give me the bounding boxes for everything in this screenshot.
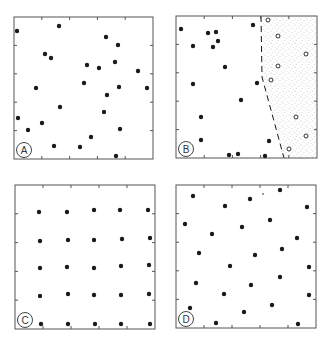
filled-point xyxy=(183,222,187,226)
panel-label: A xyxy=(21,145,28,156)
filled-point xyxy=(199,115,203,119)
panel-a: A xyxy=(14,17,153,159)
filled-point xyxy=(249,283,253,287)
panel-label: B xyxy=(183,144,190,155)
filled-point xyxy=(97,66,101,70)
filled-point xyxy=(191,82,195,86)
filled-point xyxy=(78,145,82,149)
filled-point xyxy=(253,253,257,257)
filled-point xyxy=(118,127,122,131)
filled-point xyxy=(191,194,195,198)
filled-point xyxy=(118,208,122,212)
filled-point xyxy=(117,85,121,89)
filled-point xyxy=(194,281,198,285)
filled-point xyxy=(255,81,259,85)
filled-point xyxy=(120,237,124,241)
panel-frame xyxy=(176,185,316,328)
filled-point xyxy=(251,23,255,27)
filled-point xyxy=(278,188,282,192)
filled-point xyxy=(267,139,271,143)
filled-point xyxy=(199,138,203,142)
panel-frame xyxy=(15,185,155,329)
filled-point xyxy=(38,239,42,243)
filled-point xyxy=(65,265,69,269)
filled-point xyxy=(136,69,140,73)
open-point xyxy=(269,78,273,82)
filled-point xyxy=(145,86,149,90)
filled-point xyxy=(93,322,97,326)
filled-point xyxy=(104,35,108,39)
filled-point xyxy=(105,93,109,97)
filled-point xyxy=(242,310,246,314)
filled-point xyxy=(65,210,69,214)
filled-point xyxy=(179,27,183,31)
filled-point xyxy=(57,24,61,28)
filled-point xyxy=(263,154,267,158)
filled-point xyxy=(278,275,282,279)
filled-point xyxy=(206,31,210,35)
filled-point xyxy=(119,264,123,268)
open-point xyxy=(276,64,280,68)
filled-point xyxy=(268,218,272,222)
filled-point xyxy=(214,321,218,325)
filled-point xyxy=(307,293,311,297)
speck xyxy=(262,193,264,195)
filled-point xyxy=(307,265,311,269)
filled-point xyxy=(296,322,300,326)
filled-point xyxy=(92,238,96,242)
filled-point xyxy=(89,135,93,139)
filled-point xyxy=(216,39,220,43)
filled-point xyxy=(16,116,20,120)
panel-label: D xyxy=(182,314,189,325)
filled-point xyxy=(49,56,53,60)
filled-point xyxy=(280,247,284,251)
filled-point xyxy=(146,208,150,212)
open-point xyxy=(304,134,308,138)
filled-point xyxy=(66,238,70,242)
filled-point xyxy=(223,204,227,208)
filled-point xyxy=(37,210,41,214)
filled-point xyxy=(222,292,226,296)
filled-point xyxy=(66,322,70,326)
filled-point xyxy=(58,105,62,109)
filled-point xyxy=(26,128,30,132)
filled-point xyxy=(114,154,118,158)
filled-point xyxy=(15,29,19,33)
filled-point xyxy=(82,81,86,85)
filled-point xyxy=(39,322,43,326)
panel-label: C xyxy=(21,315,28,326)
filled-point xyxy=(211,45,215,49)
open-point xyxy=(276,34,280,38)
filled-point xyxy=(248,197,252,201)
filled-point xyxy=(240,225,244,229)
filled-point xyxy=(66,292,70,296)
filled-point xyxy=(270,303,274,307)
shaded-region xyxy=(261,16,317,158)
filled-point xyxy=(188,306,192,310)
filled-point xyxy=(295,236,299,240)
open-point xyxy=(266,18,270,22)
open-point xyxy=(304,52,308,56)
panel-d: D xyxy=(176,185,316,328)
point-pattern-figure: A B C D xyxy=(0,0,330,339)
filled-point xyxy=(214,30,218,34)
filled-point xyxy=(227,153,231,157)
filled-point xyxy=(34,86,38,90)
filled-point xyxy=(102,110,106,114)
filled-point xyxy=(119,293,123,297)
panel-c: C xyxy=(15,185,155,329)
filled-point xyxy=(38,294,42,298)
filled-point xyxy=(119,322,123,326)
filled-point xyxy=(43,52,47,56)
panel-b: B xyxy=(176,16,317,158)
filled-point xyxy=(38,266,42,270)
filled-point xyxy=(191,44,195,48)
filled-point xyxy=(305,205,309,209)
open-point xyxy=(294,115,298,119)
filled-point xyxy=(92,266,96,270)
filled-point xyxy=(52,144,56,148)
filled-point xyxy=(148,322,152,326)
filled-point xyxy=(210,232,214,236)
filled-point xyxy=(92,208,96,212)
filled-point xyxy=(113,60,117,64)
